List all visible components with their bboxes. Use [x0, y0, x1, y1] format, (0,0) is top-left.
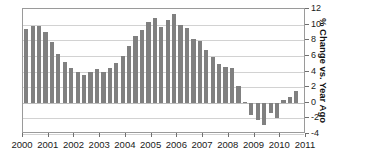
bar-chart: 121086420-2-4 % Change vs. Year Ago 2000…	[0, 0, 370, 165]
y-tick-mark	[305, 117, 309, 118]
y-axis-title: % Change vs. Year Ago	[316, 8, 330, 133]
y-tick-mark	[305, 24, 309, 25]
bar	[76, 72, 80, 102]
y-tick-mark	[305, 86, 309, 87]
bar	[230, 68, 234, 103]
bar	[269, 103, 273, 113]
bar	[275, 103, 279, 118]
bar	[243, 102, 247, 103]
bar	[127, 46, 131, 103]
bar	[114, 63, 118, 103]
bar-series	[23, 9, 304, 132]
x-tick-label: 2009	[243, 140, 264, 150]
bar	[256, 103, 260, 120]
y-tick-mark	[305, 55, 309, 56]
bar	[211, 57, 215, 102]
bar	[204, 50, 208, 102]
bar	[172, 14, 176, 102]
bar	[37, 26, 41, 103]
x-tick-label: 2010	[269, 140, 290, 150]
y-tick-mark	[305, 8, 309, 9]
bar	[288, 97, 292, 102]
x-tick-label: 2000	[11, 140, 32, 150]
x-tick-mark	[22, 133, 23, 137]
y-tick-mark	[305, 71, 309, 72]
x-tick-mark	[176, 133, 177, 137]
bar	[56, 54, 60, 103]
bar	[31, 26, 35, 103]
bar	[262, 103, 266, 125]
bar	[178, 25, 182, 103]
bar	[121, 56, 125, 103]
x-tick-label: 2001	[37, 140, 58, 150]
x-tick-mark	[202, 133, 203, 137]
bar	[281, 100, 285, 103]
bar	[217, 64, 221, 102]
bar	[43, 32, 47, 103]
bar	[101, 72, 105, 103]
bar	[249, 103, 253, 116]
bar	[294, 91, 298, 103]
bar	[146, 22, 150, 102]
bar	[223, 67, 227, 103]
x-tick-mark	[279, 133, 280, 137]
bar	[24, 29, 28, 102]
x-tick-mark	[73, 133, 74, 137]
x-axis: 2000200120022003200420052006200720082009…	[22, 133, 305, 163]
bar	[198, 41, 202, 103]
x-tick-label: 2006	[166, 140, 187, 150]
x-tick-mark	[151, 133, 152, 137]
x-tick-mark	[48, 133, 49, 137]
x-tick-mark	[99, 133, 100, 137]
x-tick-label: 2002	[63, 140, 84, 150]
x-tick-mark	[254, 133, 255, 137]
x-tick-label: 2011	[295, 140, 315, 150]
y-tick-mark	[305, 39, 309, 40]
bar	[108, 68, 112, 102]
x-tick-label: 2007	[192, 140, 213, 150]
bar	[140, 30, 144, 103]
bar	[133, 36, 137, 102]
x-tick-label: 2004	[114, 140, 135, 150]
bar	[50, 42, 54, 103]
bar	[69, 68, 73, 102]
x-tick-mark	[125, 133, 126, 137]
x-tick-mark	[228, 133, 229, 137]
bar	[166, 20, 170, 103]
plot-area	[22, 8, 305, 133]
y-tick-mark	[305, 102, 309, 103]
bar	[185, 28, 189, 103]
x-tick-label: 2008	[217, 140, 238, 150]
bar	[153, 18, 157, 103]
bar	[82, 75, 86, 103]
bar	[95, 69, 99, 103]
bar	[191, 39, 195, 102]
x-tick-label: 2005	[140, 140, 161, 150]
bar	[63, 62, 67, 103]
x-tick-label: 2003	[89, 140, 110, 150]
bar	[159, 27, 163, 103]
bar	[88, 72, 92, 103]
x-tick-mark	[305, 133, 306, 137]
bar	[236, 86, 240, 103]
